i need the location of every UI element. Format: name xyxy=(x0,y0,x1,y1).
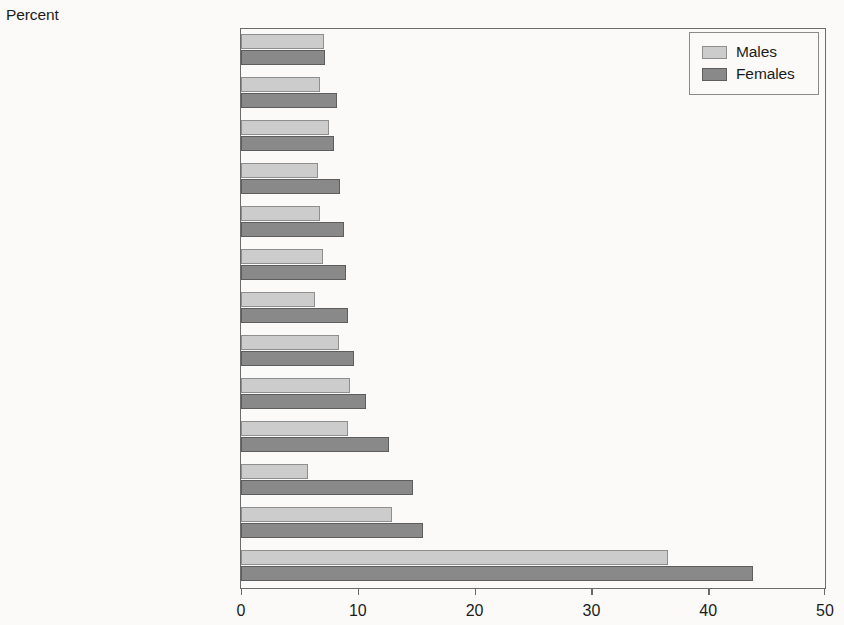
bar-males xyxy=(241,34,324,49)
x-axis-label: 0 xyxy=(237,602,246,620)
legend-item-males: Males xyxy=(702,41,808,63)
x-axis-tick xyxy=(358,588,359,595)
bar-males xyxy=(241,120,329,135)
bar-males xyxy=(241,163,318,178)
legend-label-males: Males xyxy=(736,43,777,61)
category-row: Nunavut xyxy=(241,545,825,588)
category-row: Quebec xyxy=(241,115,825,158)
bar-males xyxy=(241,77,320,92)
legend-label-females: Females xyxy=(736,65,795,83)
x-axis-tick xyxy=(591,588,592,595)
category-row: Ontario xyxy=(241,201,825,244)
bar-males xyxy=(241,507,392,522)
category-row: British Columbia xyxy=(241,287,825,330)
bar-males xyxy=(241,249,323,264)
category-row: Yukon xyxy=(241,373,825,416)
legend-swatch-females-icon xyxy=(702,68,727,81)
x-axis-tick xyxy=(241,588,242,595)
bar-females xyxy=(241,351,354,366)
bar-males xyxy=(241,292,315,307)
bar-males xyxy=(241,206,320,221)
x-axis-tick xyxy=(824,588,825,595)
x-axis-label: 40 xyxy=(699,602,717,620)
x-axis-label: 50 xyxy=(816,602,834,620)
bar-males xyxy=(241,335,339,350)
bar-females xyxy=(241,480,413,495)
x-axis-tick xyxy=(708,588,709,595)
category-row: Alberta xyxy=(241,244,825,287)
bar-females xyxy=(241,50,325,65)
bar-males xyxy=(241,550,668,565)
bar-chart: Percent Newfoundland and LabradorManitob… xyxy=(0,0,844,625)
bar-females xyxy=(241,265,346,280)
bar-females xyxy=(241,523,423,538)
bar-females xyxy=(241,308,348,323)
category-row: Prince Edward Island xyxy=(241,459,825,502)
x-axis-tick xyxy=(475,588,476,595)
category-row: Northwest Territories xyxy=(241,502,825,545)
legend-swatch-males-icon xyxy=(702,46,727,59)
bar-females xyxy=(241,136,334,151)
bar-males xyxy=(241,464,308,479)
bar-males xyxy=(241,378,350,393)
bar-females xyxy=(241,394,366,409)
bar-females xyxy=(241,566,753,581)
x-axis-label: 30 xyxy=(582,602,600,620)
plot-area: Newfoundland and LabradorManitobaQuebecS… xyxy=(240,28,826,589)
category-row: Saskatchewan xyxy=(241,158,825,201)
category-row: Nova Scotia xyxy=(241,416,825,459)
bar-females xyxy=(241,222,344,237)
category-row: New Brunswick xyxy=(241,330,825,373)
bar-females xyxy=(241,437,389,452)
x-axis-label: 10 xyxy=(349,602,367,620)
y-axis-caption: Percent xyxy=(6,6,59,24)
x-axis-label: 20 xyxy=(466,602,484,620)
bar-males xyxy=(241,421,348,436)
bar-females xyxy=(241,93,337,108)
chart-legend: Males Females xyxy=(689,32,819,95)
legend-item-females: Females xyxy=(702,63,808,85)
bar-females xyxy=(241,179,340,194)
